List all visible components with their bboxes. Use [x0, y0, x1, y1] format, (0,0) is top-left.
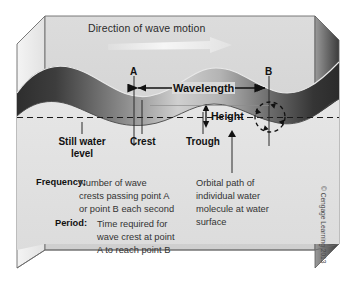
frequency-definition-text: Number of wave crests passing point A or… [79, 177, 174, 216]
period-term-label: Period: [55, 218, 87, 228]
wavelength-label: Wavelength [172, 82, 235, 94]
copyright-notice: © Cengage Learning 2013 [320, 186, 327, 263]
crest-label: Crest [130, 136, 156, 147]
still-water-level-label: Still water level [45, 136, 119, 159]
point-b-label: B [265, 66, 272, 77]
orbital-path-callout-text: Orbital path of individual water molecul… [196, 177, 269, 229]
point-a-label: A [130, 66, 137, 77]
period-definition-text: Time required for wave crest at point A … [97, 218, 175, 257]
height-label: Height [211, 110, 244, 122]
direction-of-wave-motion-label: Direction of wave motion [88, 22, 205, 34]
box-bottom-foot [17, 244, 339, 268]
trough-label: Trough [186, 136, 220, 147]
wave-anatomy-figure: Direction of wave motion A B Wavelength … [0, 0, 357, 284]
